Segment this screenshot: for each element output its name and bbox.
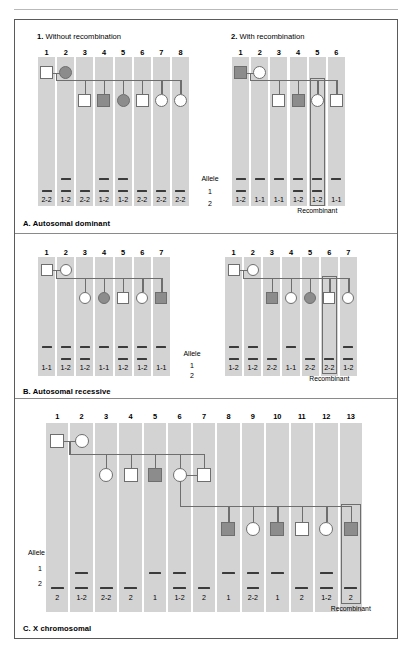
genotype-label: 2 xyxy=(45,594,69,602)
column-number: 9 xyxy=(241,412,265,422)
pedigree-symbol-square-unaffected xyxy=(228,264,240,276)
allele-bar-2 xyxy=(320,587,333,589)
pedigree-symbol-square-unaffected xyxy=(272,94,285,107)
allele-bar-1 xyxy=(99,346,109,348)
pedigree-symbol-square-unaffected xyxy=(330,94,343,107)
allele-bar-1 xyxy=(229,346,239,348)
column-number: 1 xyxy=(37,48,56,58)
allele-bar-1 xyxy=(331,178,341,180)
descent-line xyxy=(56,270,57,278)
column-number: 5 xyxy=(301,248,320,258)
child-line xyxy=(131,454,132,468)
allele-row-2-b: 2 xyxy=(175,372,209,379)
genotype-label: 1-1 xyxy=(37,364,56,372)
column-number: 2 xyxy=(56,248,75,258)
panel-a1-index: 1. xyxy=(37,32,43,41)
column-number: 13 xyxy=(339,412,363,422)
section-a-caption: A. Autosomal dominant xyxy=(23,219,110,228)
sibship-line xyxy=(180,506,351,507)
child-line xyxy=(302,506,303,522)
column-number: 7 xyxy=(152,248,171,258)
recombinant-label: Recombinant xyxy=(301,375,357,382)
pedigree-symbol-circle-affected xyxy=(98,292,110,304)
pedigree-symbol-circle-affected xyxy=(117,94,130,107)
allele-bar-2 xyxy=(99,190,109,192)
allele-bar-1 xyxy=(156,346,166,348)
child-line xyxy=(85,80,86,94)
allele-bar-2 xyxy=(75,587,88,589)
lane-group xyxy=(45,412,363,612)
allele-bar-1 xyxy=(137,346,147,348)
genotype-label: 1-2 xyxy=(314,594,338,602)
allele-bar-2 xyxy=(236,190,246,192)
genotype-label: 1 xyxy=(143,594,167,602)
section-c-caption: C. X chromosomal xyxy=(23,624,91,633)
genotype-label: 1-1 xyxy=(269,196,288,204)
allele-title-a: Allele xyxy=(193,175,227,182)
allele-bar-1 xyxy=(222,572,235,574)
allele-bar-1 xyxy=(236,178,246,180)
allele-bar-1 xyxy=(271,572,284,574)
allele-bar-2 xyxy=(293,190,303,192)
allele-bar-2 xyxy=(118,190,128,192)
allele-bar-1 xyxy=(149,572,162,574)
lane-column xyxy=(119,423,141,612)
genotype-label: 1-1 xyxy=(250,196,269,204)
recombinant-box xyxy=(310,78,325,206)
child-line xyxy=(106,454,107,468)
genotype-label: 1-2 xyxy=(133,364,152,372)
allele-title-b: Allele xyxy=(175,350,209,357)
lane-column xyxy=(38,57,55,206)
lane-column xyxy=(95,423,117,612)
child-line xyxy=(336,80,337,94)
allele-row-1-a: 1 xyxy=(193,188,227,195)
column-number: 3 xyxy=(269,48,288,58)
allele-bar-1 xyxy=(274,178,284,180)
allele-bar-2 xyxy=(118,358,128,360)
column-number: 3 xyxy=(75,248,94,258)
allele-row-2-a: 2 xyxy=(193,200,227,207)
pedigree-symbol-circle-unaffected xyxy=(75,434,89,448)
section-c: 1234567891011121321-22-2211-2212-2121-22… xyxy=(15,398,397,640)
genotype-label: 1-2 xyxy=(94,196,113,204)
child-line xyxy=(161,80,162,94)
genotype-label: 2-2 xyxy=(75,196,94,204)
genotype-label: 2 xyxy=(290,594,314,602)
allele-bar-1 xyxy=(173,572,186,574)
recombinant-label: Recombinant xyxy=(323,605,379,612)
column-number: 1 xyxy=(224,248,243,258)
allele-bar-2 xyxy=(343,358,353,360)
column-number: 7 xyxy=(339,248,358,258)
lane-column xyxy=(168,423,190,612)
column-number: 4 xyxy=(94,248,113,258)
pedigree-symbol-circle-unaffected xyxy=(247,264,259,276)
pedigree-panel-a1: 123456782-21-22-21-21-22-22-22-2 xyxy=(37,48,190,206)
lane-column xyxy=(70,423,92,612)
recombinant-box xyxy=(322,276,337,374)
genotype-label: 2-2 xyxy=(171,196,190,204)
column-number: 6 xyxy=(133,48,152,58)
column-number: 4 xyxy=(94,48,113,58)
pedigree-symbol-square-unaffected xyxy=(197,468,211,482)
pedigree-symbol-square-affected xyxy=(266,292,278,304)
pedigree-symbol-square-affected xyxy=(155,292,167,304)
genotype-label: 2-2 xyxy=(152,196,171,204)
column-number: 2 xyxy=(56,48,75,58)
allele-bar-2 xyxy=(267,358,277,360)
lane-column xyxy=(153,257,170,376)
child-line xyxy=(155,454,156,468)
allele-bar-2 xyxy=(248,358,258,360)
genotype-label: 2-2 xyxy=(133,196,152,204)
column-number: 11 xyxy=(290,412,314,422)
allele-bar-2 xyxy=(124,587,137,589)
pedigree-symbol-square-unaffected xyxy=(295,522,309,536)
genotype-label: 1-1 xyxy=(152,364,171,372)
column-number: 2 xyxy=(69,412,93,422)
column-number: 5 xyxy=(308,48,327,58)
allele-bar-2 xyxy=(137,190,147,192)
descent-line xyxy=(250,73,251,81)
genotype-label: 1-1 xyxy=(281,364,300,372)
pedigree-symbol-square-unaffected xyxy=(41,264,53,276)
child-line xyxy=(310,278,311,292)
child-line xyxy=(142,278,143,292)
